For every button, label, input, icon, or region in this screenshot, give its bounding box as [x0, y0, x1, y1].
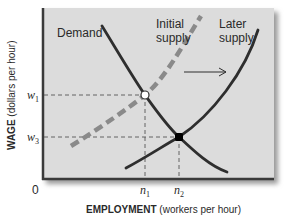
- x-axis-title: EMPLOYMENT (workers per hour): [86, 204, 241, 215]
- x-tick-n1: n1: [140, 183, 150, 199]
- y-axis-title: WAGE (dollars per hour): [6, 41, 17, 150]
- initial-supply-label: Initial supply: [156, 17, 191, 45]
- y-tick-w3: w3: [27, 130, 39, 146]
- new-equilibrium-point: [175, 133, 183, 141]
- initial-equilibrium-point: [141, 91, 149, 99]
- demand-label: Demand: [57, 26, 102, 40]
- y-tick-w1: w1: [27, 88, 39, 104]
- labor-market-chart: Demand Initial supply Later supply w1 w3…: [0, 0, 294, 219]
- x-tick-n2: n2: [174, 183, 184, 199]
- origin-label: 0: [32, 183, 39, 197]
- later-supply-label: Later supply: [219, 17, 254, 45]
